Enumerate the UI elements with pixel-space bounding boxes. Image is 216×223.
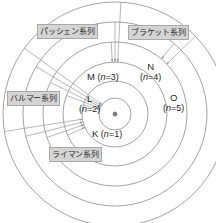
shell-label-n-quantum-number: (n=4) xyxy=(140,72,161,82)
transition-arrow-brackett-5-to-4 xyxy=(161,44,174,59)
shell-label-l-quantum-number: (n=2) xyxy=(79,104,100,114)
series-paschen-label: パッシェン系列 xyxy=(37,24,98,39)
transition-arrow-balmer-3-to-2 xyxy=(68,127,85,135)
bohr-model-diagram: K (n=1)L(n=2)M (n=3)N(n=4)O(n=5) パッシェン系列… xyxy=(0,0,216,223)
transition-arrow-brackett-6-to-4 xyxy=(167,36,196,64)
shell-label-n: N(n=4) xyxy=(140,62,161,82)
series-lyman-label: ライマン系列 xyxy=(49,147,102,162)
transition-arrow-paschen-6-to-3 xyxy=(118,2,121,62)
series-balmer-label: バルマー系列 xyxy=(7,91,60,106)
shell-label-l-letter: L xyxy=(87,93,92,104)
shell-label-n-row-2: (n=4) xyxy=(140,72,161,82)
nucleus-icon xyxy=(113,112,117,116)
shell-label-n-row-1: N xyxy=(140,62,161,72)
shell-label-l-row-1: L xyxy=(79,94,100,104)
shell-label-o-letter: O xyxy=(170,92,177,103)
shell-label-o-row-1: O xyxy=(163,93,184,103)
shell-label-k-letter: K xyxy=(92,128,98,139)
nucleus-group xyxy=(113,112,117,116)
shell-label-m: M (n=3) xyxy=(87,72,119,82)
shell-label-l-row-2: (n=2) xyxy=(79,104,100,114)
transition-arrow-paschen-4-to-3 xyxy=(111,42,112,62)
shell-label-n-letter: N xyxy=(147,61,154,72)
shell-label-o: O(n=5) xyxy=(163,93,184,113)
shell-label-m-quantum-number: (n=3) xyxy=(97,72,118,82)
shell-label-k: K (n=1) xyxy=(92,129,122,139)
shell-label-k-quantum-number: (n=1) xyxy=(101,129,122,139)
shell-label-o-quantum-number: (n=5) xyxy=(163,103,184,113)
series-brackett-label: ブラケット系列 xyxy=(128,25,189,40)
transition-arrow-balmer-5-to-2 xyxy=(26,122,83,136)
shell-label-o-row-2: (n=5) xyxy=(163,103,184,113)
shell-label-m-letter: M xyxy=(87,71,95,82)
shell-label-l: L(n=2) xyxy=(79,94,100,114)
